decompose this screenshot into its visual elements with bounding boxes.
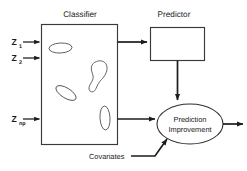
prediction-improvement-line1: Prediction <box>174 115 207 124</box>
input-znp-subscript: np <box>19 121 26 127</box>
input-z1-subscript: 1 <box>19 44 22 50</box>
diagram-canvas: Classifier Predictor Prediction Improvem… <box>0 0 247 171</box>
covariates-label: Covariates <box>89 152 125 161</box>
input-znp-base: Z <box>11 114 16 124</box>
input-z1-base: Z <box>11 37 16 47</box>
input-z2-base: Z <box>11 53 16 63</box>
figure-container: Classifier Predictor Prediction Improvem… <box>0 0 247 171</box>
edge-covariates-to-outcome <box>131 139 167 156</box>
prediction-improvement-line2: Improvement <box>168 125 211 134</box>
predictor-title: Predictor <box>158 10 191 19</box>
predictor-box[interactable] <box>151 28 205 61</box>
input-label-z2: Z 2 <box>11 53 22 66</box>
classifier-title: Classifier <box>63 10 97 19</box>
input-label-z1: Z 1 <box>11 37 22 50</box>
input-label-znp: Z np <box>11 114 26 127</box>
input-z2-subscript: 2 <box>19 60 22 66</box>
